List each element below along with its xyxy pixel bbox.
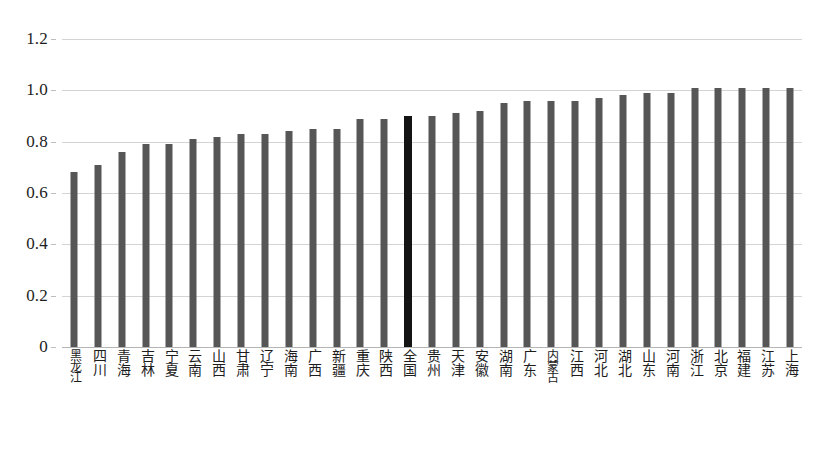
bar[interactable] bbox=[715, 88, 722, 347]
bar-slot bbox=[157, 39, 181, 347]
bar[interactable] bbox=[452, 113, 459, 347]
bar-slot bbox=[253, 39, 277, 347]
bar-slot bbox=[683, 39, 707, 347]
bar-slot bbox=[62, 39, 86, 347]
x-tick-label: 新疆 bbox=[329, 349, 343, 376]
y-tick-label: 0.8 bbox=[26, 132, 48, 152]
x-tick-label: 河北 bbox=[592, 349, 606, 376]
x-tick-label: 山西 bbox=[210, 349, 224, 376]
bar-slot bbox=[492, 39, 516, 347]
x-tick-label: 天津 bbox=[449, 349, 463, 376]
x-tick-label: 江西 bbox=[568, 349, 582, 376]
bar[interactable] bbox=[572, 101, 579, 347]
bar[interactable] bbox=[524, 101, 531, 347]
y-tick-mark bbox=[51, 347, 56, 348]
gridline bbox=[62, 347, 802, 348]
bar[interactable] bbox=[118, 152, 125, 347]
x-tick-label: 江苏 bbox=[759, 349, 773, 376]
bar[interactable] bbox=[787, 88, 794, 347]
y-tick-mark bbox=[51, 193, 56, 194]
bar-slot bbox=[110, 39, 134, 347]
bar-highlight[interactable] bbox=[404, 116, 412, 347]
x-tick-label: 云南 bbox=[186, 349, 200, 376]
bar[interactable] bbox=[357, 119, 364, 347]
y-tick-mark bbox=[51, 90, 56, 91]
bar-slot bbox=[563, 39, 587, 347]
x-tick-label: 广东 bbox=[520, 349, 534, 376]
bar-slot bbox=[611, 39, 635, 347]
bar[interactable] bbox=[214, 137, 221, 347]
bar[interactable] bbox=[643, 93, 650, 347]
bar-slot bbox=[444, 39, 468, 347]
bar[interactable] bbox=[691, 88, 698, 347]
bar-slot bbox=[754, 39, 778, 347]
bar-slot bbox=[659, 39, 683, 347]
bar[interactable] bbox=[476, 111, 483, 347]
x-tick-label: 海南 bbox=[282, 349, 296, 376]
bar-slot bbox=[468, 39, 492, 347]
bar[interactable] bbox=[763, 88, 770, 347]
x-tick-label: 全国 bbox=[401, 349, 415, 376]
x-tick-label: 青海 bbox=[115, 349, 129, 376]
y-tick-label: 0.2 bbox=[26, 286, 48, 306]
bar[interactable] bbox=[166, 144, 173, 347]
bar[interactable] bbox=[381, 119, 388, 347]
bar-slot bbox=[277, 39, 301, 347]
bar[interactable] bbox=[261, 134, 268, 347]
x-tick-label: 安徽 bbox=[473, 349, 487, 376]
y-tick-label: 1.0 bbox=[26, 80, 48, 100]
bar-slot bbox=[205, 39, 229, 347]
bar[interactable] bbox=[70, 172, 77, 347]
y-tick-mark bbox=[51, 244, 56, 245]
bar-chart: 00.20.40.60.81.01.2 黑龙江四川青海吉林宁夏云南山西甘肃辽宁海… bbox=[0, 0, 833, 450]
x-tick-label: 四川 bbox=[91, 349, 105, 376]
bar[interactable] bbox=[309, 129, 316, 347]
x-tick-label: 湖北 bbox=[616, 349, 630, 376]
y-tick-label: 1.2 bbox=[26, 29, 48, 49]
bar[interactable] bbox=[190, 139, 197, 347]
bar-slot bbox=[134, 39, 158, 347]
bar-slot bbox=[372, 39, 396, 347]
bar-slot bbox=[301, 39, 325, 347]
y-tick-mark bbox=[51, 142, 56, 143]
bar[interactable] bbox=[596, 98, 603, 347]
x-tick-label: 辽宁 bbox=[258, 349, 272, 376]
y-tick-label: 0 bbox=[39, 337, 48, 357]
x-tick-label: 内蒙古 bbox=[545, 349, 557, 382]
bar-slot bbox=[325, 39, 349, 347]
bar[interactable] bbox=[285, 131, 292, 347]
y-tick-mark bbox=[51, 39, 56, 40]
y-tick-label: 0.6 bbox=[26, 183, 48, 203]
bar[interactable] bbox=[94, 165, 101, 347]
bar-slot bbox=[778, 39, 802, 347]
x-tick-label: 山东 bbox=[640, 349, 654, 376]
bar[interactable] bbox=[739, 88, 746, 347]
x-tick-label: 贵州 bbox=[425, 349, 439, 376]
bar-slot bbox=[730, 39, 754, 347]
bar-slot bbox=[229, 39, 253, 347]
bar-slot bbox=[707, 39, 731, 347]
bar-slot bbox=[516, 39, 540, 347]
bar[interactable] bbox=[619, 95, 626, 347]
bar[interactable] bbox=[667, 93, 674, 347]
x-tick-label: 宁夏 bbox=[162, 349, 176, 376]
bar-slot bbox=[587, 39, 611, 347]
x-tick-label: 湖南 bbox=[496, 349, 510, 376]
x-tick-label: 黑龙江 bbox=[68, 349, 80, 382]
y-axis: 00.20.40.60.81.01.2 bbox=[0, 39, 56, 347]
x-tick-label: 吉林 bbox=[138, 349, 152, 376]
bar[interactable] bbox=[333, 129, 340, 347]
bar[interactable] bbox=[428, 116, 435, 347]
bar-slot bbox=[539, 39, 563, 347]
bar-slot bbox=[635, 39, 659, 347]
x-tick-label: 北京 bbox=[711, 349, 725, 376]
bar[interactable] bbox=[238, 134, 245, 347]
bar[interactable] bbox=[142, 144, 149, 347]
x-tick-label: 福建 bbox=[735, 349, 749, 376]
x-tick-label: 上海 bbox=[783, 349, 797, 376]
bar-slot bbox=[86, 39, 110, 347]
bar[interactable] bbox=[500, 103, 507, 347]
bar-slot bbox=[420, 39, 444, 347]
plot-area bbox=[62, 39, 802, 347]
bar[interactable] bbox=[548, 101, 555, 347]
